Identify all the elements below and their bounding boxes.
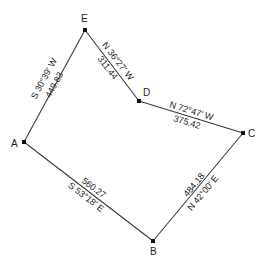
vertex-D-label: D <box>143 87 150 98</box>
vertex-A-marker <box>22 140 26 144</box>
vertex-E-label: E <box>81 13 88 24</box>
vertex-C-marker <box>241 131 245 135</box>
vertex-B-label: B <box>150 246 157 257</box>
vertex-B-marker <box>151 239 155 243</box>
vertex-C-label: C <box>248 128 255 139</box>
vertex-D-marker <box>137 99 141 103</box>
vertex-A-label: A <box>11 138 18 149</box>
traverse-diagram: A B C D E S 30°39′ W 449.83 N 36°27′ W 3… <box>0 0 267 263</box>
vertex-E-marker <box>83 28 87 32</box>
